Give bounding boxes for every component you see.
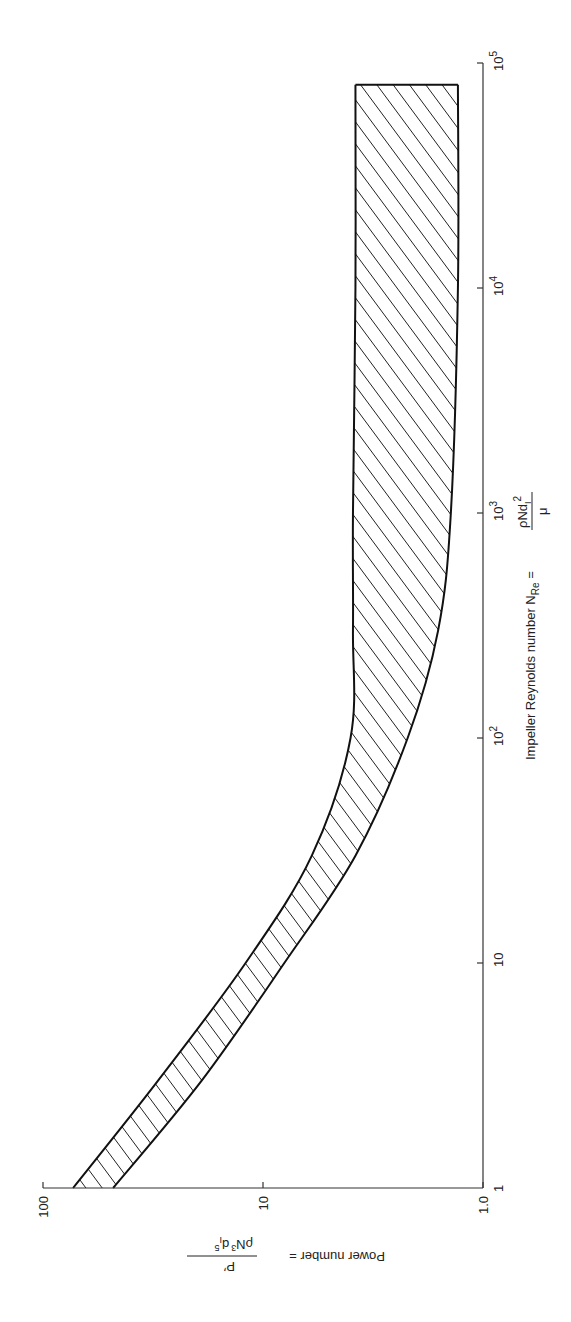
svg-text:1: 1 — [491, 1185, 506, 1192]
x-tick-label: 1 — [491, 1185, 506, 1192]
x-tick-label: 10 — [491, 953, 506, 967]
x-title-eq: = — [523, 571, 538, 582]
svg-text:104: 104 — [488, 276, 506, 296]
x-tick-label: 104 — [488, 276, 506, 296]
y-tick-label: 100 — [36, 1196, 51, 1218]
svg-text:ρNdI2: ρNdI2 — [512, 495, 533, 528]
svg-text:105: 105 — [488, 51, 506, 71]
reynolds-axis-title: Impeller Reynolds number NRe = ρNdI2 μ — [512, 492, 550, 760]
reynolds-axis-ticks: 110102103104105 — [477, 51, 506, 1192]
x-title-text: Impeller Reynolds number N — [523, 595, 538, 760]
upper-bound-curve — [73, 85, 356, 1188]
x-tick-label: 102 — [488, 726, 506, 746]
hatch-fill — [0, 0, 571, 1322]
svg-text:103: 103 — [488, 501, 506, 521]
y-frac-den-sup: 3 — [231, 1243, 236, 1253]
y-title-text: Power number = — [289, 1249, 385, 1264]
power-number-chart: 110102103104105 1.010100 Impeller Reynol… — [0, 0, 571, 1322]
svg-text:Impeller Reynolds number NRe =: Impeller Reynolds number NRe = — [523, 571, 541, 760]
y-frac-den-d: d — [222, 1237, 229, 1252]
y-frac-den: ρN — [236, 1237, 253, 1252]
lower-bound-curve — [113, 85, 458, 1188]
y-tick-label: 1.0 — [476, 1196, 491, 1214]
x-frac-num-sup: 2 — [512, 495, 523, 501]
x-tick-label: 103 — [488, 501, 506, 521]
y-tick-label: 10 — [256, 1196, 271, 1210]
power-axis-title: Power number = P′ ρN3dI5 — [187, 1235, 385, 1274]
power-axis-ticks: 1.010100 — [36, 1182, 491, 1218]
svg-text:1.0: 1.0 — [476, 1196, 491, 1214]
y-frac-den-sup2: 5 — [214, 1243, 219, 1253]
svg-text:102: 102 — [488, 726, 506, 746]
x-tick-label: 105 — [488, 51, 506, 71]
y-frac-numerator: P′ — [223, 1259, 235, 1274]
x-frac-denominator: μ — [535, 508, 550, 516]
svg-text:100: 100 — [36, 1196, 51, 1218]
svg-text:ρN3dI5: ρN3dI5 — [214, 1235, 253, 1253]
svg-text:10: 10 — [256, 1196, 271, 1210]
x-title-sub: Re — [530, 582, 541, 595]
x-frac-numerator: ρNd — [515, 504, 530, 528]
svg-text:10: 10 — [491, 953, 506, 967]
